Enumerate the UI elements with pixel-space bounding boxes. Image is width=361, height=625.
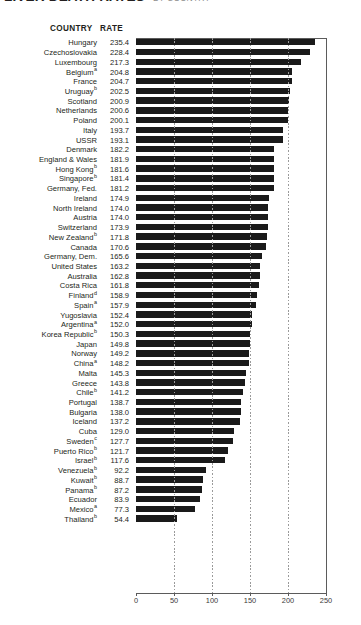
bar[interactable]: [136, 302, 256, 308]
bar[interactable]: [136, 506, 195, 512]
bar[interactable]: [136, 486, 202, 492]
table-row[interactable]: Argentinaa152.0: [0, 320, 361, 330]
bar[interactable]: [136, 253, 262, 259]
bar[interactable]: [136, 272, 260, 278]
table-row[interactable]: Netherlands200.6: [0, 106, 361, 116]
table-row[interactable]: Luxembourg217.3: [0, 57, 361, 67]
bar[interactable]: [136, 243, 266, 249]
table-row[interactable]: Thailandb54.4: [0, 514, 361, 524]
bar[interactable]: [136, 292, 257, 298]
table-row[interactable]: Greece143.8: [0, 378, 361, 388]
rate-value: 158.9: [99, 291, 129, 300]
footnote-marker: d: [94, 290, 97, 296]
bar[interactable]: [136, 399, 241, 405]
table-row[interactable]: Yugoslavia152.4: [0, 310, 361, 320]
table-row[interactable]: Israelb117.6: [0, 456, 361, 466]
bar[interactable]: [136, 165, 274, 171]
bar[interactable]: [136, 340, 250, 346]
table-row[interactable]: United States163.2: [0, 262, 361, 272]
table-row[interactable]: Cuba129.0: [0, 427, 361, 437]
table-row[interactable]: Czechoslovakia228.4: [0, 48, 361, 58]
table-row[interactable]: Poland200.1: [0, 116, 361, 126]
bar[interactable]: [136, 195, 269, 201]
bar[interactable]: [136, 185, 274, 191]
bar[interactable]: [136, 467, 206, 473]
table-row[interactable]: Singaporeb181.4: [0, 174, 361, 184]
bar[interactable]: [136, 233, 267, 239]
bar[interactable]: [136, 224, 268, 230]
table-row[interactable]: Bulgaria138.0: [0, 407, 361, 417]
table-row[interactable]: Venezuelab92.2: [0, 466, 361, 476]
table-row[interactable]: Kuwaitb88.7: [0, 475, 361, 485]
country-label: Bulgaria: [69, 408, 97, 417]
table-row[interactable]: Hong Kongb181.6: [0, 164, 361, 174]
table-row[interactable]: Puerto Ricob121.7: [0, 446, 361, 456]
table-row[interactable]: Switzerland173.9: [0, 223, 361, 233]
table-row[interactable]: North Ireland174.0: [0, 203, 361, 213]
bar[interactable]: [136, 360, 249, 366]
bar[interactable]: [136, 428, 234, 434]
bar[interactable]: [136, 175, 274, 181]
table-row[interactable]: Portugal138.7: [0, 398, 361, 408]
bar[interactable]: [136, 49, 310, 55]
table-row[interactable]: Norway149.2: [0, 349, 361, 359]
table-row[interactable]: Germany, Dem.165.6: [0, 252, 361, 262]
bar[interactable]: [136, 370, 246, 376]
table-row[interactable]: Italy193.7: [0, 125, 361, 135]
table-row[interactable]: Iceland137.2: [0, 417, 361, 427]
table-row[interactable]: France204.7: [0, 77, 361, 87]
table-row[interactable]: Costa Rica161.8: [0, 281, 361, 291]
bar[interactable]: [136, 78, 292, 84]
bar[interactable]: [136, 418, 240, 424]
bar[interactable]: [136, 331, 250, 337]
bar[interactable]: [136, 282, 259, 288]
gridline: [212, 38, 213, 594]
table-row[interactable]: Korea Republicb150.3: [0, 330, 361, 340]
table-row[interactable]: Ireland174.9: [0, 194, 361, 204]
table-row[interactable]: Scotland200.9: [0, 96, 361, 106]
table-row[interactable]: Mexicoa77.3: [0, 505, 361, 515]
rate-value: 152.4: [99, 311, 129, 320]
table-row[interactable]: Spaina157.9: [0, 300, 361, 310]
bar[interactable]: [136, 321, 252, 327]
table-row[interactable]: Panamab87.2: [0, 485, 361, 495]
table-row[interactable]: Chileb141.2: [0, 388, 361, 398]
bar[interactable]: [136, 136, 283, 142]
table-row[interactable]: Austria174.0: [0, 213, 361, 223]
table-row[interactable]: Chinaa148.2: [0, 359, 361, 369]
bar[interactable]: [136, 350, 249, 356]
bar[interactable]: [136, 408, 241, 414]
table-row[interactable]: New Zealandb171.8: [0, 232, 361, 242]
table-row[interactable]: USSR193.1: [0, 135, 361, 145]
bar[interactable]: [136, 156, 274, 162]
bar[interactable]: [136, 146, 274, 152]
bar[interactable]: [136, 204, 268, 210]
table-row[interactable]: Hungary235.4: [0, 38, 361, 48]
table-row[interactable]: Uruguayb202.5: [0, 87, 361, 97]
table-row[interactable]: Swedenc127.7: [0, 437, 361, 447]
bar[interactable]: [136, 127, 283, 133]
table-row[interactable]: Denmark182.2: [0, 145, 361, 155]
table-row[interactable]: Japan149.8: [0, 339, 361, 349]
table-row[interactable]: Belgiuma204.8: [0, 67, 361, 77]
bar[interactable]: [136, 68, 292, 74]
bar[interactable]: [136, 263, 260, 269]
bar[interactable]: [136, 447, 228, 453]
table-row[interactable]: Germany, Fed.181.2: [0, 184, 361, 194]
table-row[interactable]: Ecuador83.9: [0, 495, 361, 505]
bar[interactable]: [136, 59, 301, 65]
title-container: LIVER DEATH RATESBY COUNTRY: [4, 0, 361, 5]
bar[interactable]: [136, 438, 233, 444]
bar[interactable]: [136, 389, 243, 395]
table-row[interactable]: England & Wales181.9: [0, 155, 361, 165]
table-row[interactable]: Malta145.3: [0, 368, 361, 378]
table-row[interactable]: Canada170.6: [0, 242, 361, 252]
bar[interactable]: [136, 214, 268, 220]
table-row[interactable]: Finlandd158.9: [0, 291, 361, 301]
table-row[interactable]: Australia162.8: [0, 271, 361, 281]
bar[interactable]: [136, 515, 177, 521]
bar[interactable]: [136, 496, 200, 502]
bar[interactable]: [136, 379, 245, 385]
bar[interactable]: [136, 476, 203, 482]
bar[interactable]: [136, 311, 252, 317]
